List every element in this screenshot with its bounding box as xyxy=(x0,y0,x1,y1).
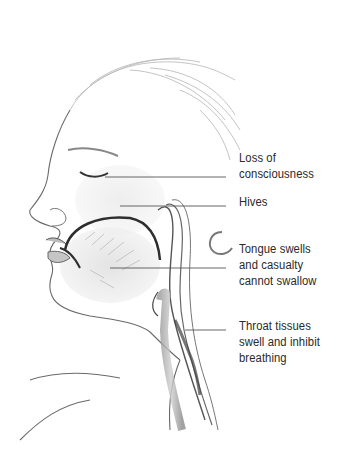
label-line: breathing xyxy=(239,350,320,366)
label-line: Throat tissues xyxy=(239,318,320,334)
tongue-shading xyxy=(60,227,160,303)
label-tongue: Tongue swells and casualty cannot swallo… xyxy=(239,241,317,289)
label-line: Loss of xyxy=(239,150,314,166)
label-line: Hives xyxy=(239,194,268,210)
hair xyxy=(70,58,240,160)
neck-back xyxy=(172,200,218,430)
trachea xyxy=(160,293,182,431)
label-line: and casualty xyxy=(239,257,317,273)
anatomy-illustration xyxy=(0,0,346,459)
upper-lip xyxy=(46,238,66,244)
ear xyxy=(210,232,232,254)
label-line: consciousness xyxy=(239,166,314,182)
label-hives: Hives xyxy=(239,194,268,210)
throat-shading xyxy=(175,320,200,395)
label-line: Tongue swells xyxy=(239,241,317,257)
label-line: swell and inhibit xyxy=(239,334,320,350)
label-throat: Throat tissues swell and inhibit breathi… xyxy=(239,318,320,366)
label-line: cannot swallow xyxy=(239,273,317,289)
nose xyxy=(50,208,66,226)
eyebrow xyxy=(68,148,118,156)
label-loss-of-consciousness: Loss of consciousness xyxy=(239,150,314,182)
